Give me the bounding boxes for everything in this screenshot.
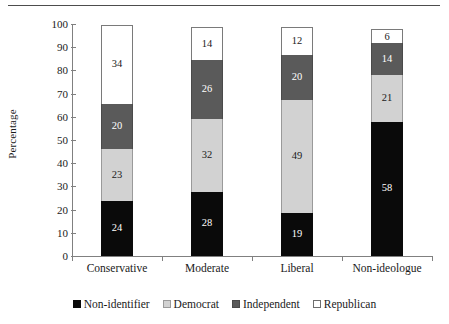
bar-segment[interactable]: 49 (281, 99, 313, 213)
bar-segment-value: 14 (382, 54, 393, 65)
x-tick-mark (72, 256, 73, 261)
bar-segment-value: 20 (292, 72, 303, 83)
bar-segment-value: 20 (112, 121, 123, 132)
stacked-bar[interactable]: 28322614 (191, 24, 223, 256)
y-tick-label: 10 (38, 226, 68, 241)
y-tick-mark (71, 233, 76, 234)
x-axis-label: Conservative (72, 262, 162, 274)
legend-item[interactable]: Independent (232, 298, 300, 310)
bar-group: 24232034 (101, 24, 133, 256)
legend-swatch-icon (73, 300, 81, 308)
bar-segment-value: 21 (382, 93, 393, 104)
stacked-bar[interactable]: 19492012 (281, 24, 313, 256)
bar-segment[interactable]: 28 (191, 191, 223, 256)
y-tick-mark (71, 117, 76, 118)
x-axis-label: Liberal (252, 262, 342, 274)
y-tick-mark (71, 140, 76, 141)
y-tick-mark (71, 210, 76, 211)
bar-group: 19492012 (281, 24, 313, 256)
x-tick-mark (252, 256, 253, 261)
y-tick-mark (71, 163, 76, 164)
bar-segment[interactable]: 20 (101, 103, 133, 149)
stacked-bar[interactable]: 24232034 (101, 24, 133, 256)
legend-label: Non-identifier (84, 298, 150, 310)
bar-segment[interactable]: 26 (191, 59, 223, 119)
bar-segment[interactable]: 14 (191, 27, 223, 59)
y-tick-mark (71, 94, 76, 95)
bar-segment-value: 6 (384, 32, 389, 43)
x-tick-mark (432, 256, 433, 261)
bar-group: 28322614 (191, 24, 223, 256)
y-tick-mark (71, 47, 76, 48)
x-tick-mark (342, 256, 343, 261)
stacked-bar-chart-figure: Percentage 0102030405060708090100 242320… (0, 0, 449, 324)
bar-segment[interactable]: 14 (371, 42, 403, 74)
legend-label: Republican (324, 298, 376, 310)
bar-segment-value: 26 (202, 84, 213, 95)
x-axis-label: Moderate (162, 262, 252, 274)
legend-swatch-icon (163, 300, 171, 308)
bar-segment[interactable]: 6 (371, 29, 403, 43)
bar-segment[interactable]: 23 (101, 148, 133, 201)
y-tick-label: 0 (38, 249, 68, 264)
x-axis-label: Non-ideologue (342, 262, 432, 274)
stacked-bar[interactable]: 5821146 (371, 24, 403, 256)
bar-segment[interactable]: 58 (371, 121, 403, 256)
y-tick-label: 20 (38, 203, 68, 218)
x-tick-mark (162, 256, 163, 261)
plot-area: 0102030405060708090100 24232034283226141… (72, 24, 432, 256)
bar-segment-value: 14 (202, 39, 213, 50)
y-tick-label: 70 (38, 87, 68, 102)
legend-item[interactable]: Republican (313, 298, 376, 310)
bar-segment[interactable]: 34 (101, 25, 133, 104)
y-tick-mark (71, 186, 76, 187)
bar-group: 5821146 (371, 24, 403, 256)
bar-segment[interactable]: 32 (191, 118, 223, 192)
chart-legend: Non-identifierDemocratIndependentRepubli… (0, 298, 449, 310)
y-axis-title: Percentage (6, 89, 18, 179)
legend-swatch-icon (313, 300, 321, 308)
bar-segment-value: 19 (292, 229, 303, 240)
y-tick-label: 80 (38, 63, 68, 78)
bar-segment[interactable]: 19 (281, 212, 313, 256)
bar-segment-value: 34 (112, 59, 123, 70)
y-tick-label: 60 (38, 110, 68, 125)
bar-segment[interactable]: 12 (281, 27, 313, 55)
bar-segment-value: 12 (292, 36, 303, 47)
y-tick-label: 50 (38, 133, 68, 148)
bar-segment-value: 32 (202, 150, 213, 161)
y-tick-mark (71, 70, 76, 71)
bar-segment-value: 24 (112, 223, 123, 234)
y-tick-label: 90 (38, 40, 68, 55)
bar-segment[interactable]: 24 (101, 200, 133, 256)
legend-swatch-icon (232, 300, 240, 308)
y-tick-label: 30 (38, 179, 68, 194)
legend-item[interactable]: Democrat (163, 298, 219, 310)
bar-segment-value: 49 (292, 151, 303, 162)
bar-segment-value: 58 (382, 183, 393, 194)
bar-segment[interactable]: 21 (371, 74, 403, 123)
legend-item[interactable]: Non-identifier (73, 298, 150, 310)
legend-label: Democrat (174, 298, 219, 310)
bar-segment[interactable]: 20 (281, 54, 313, 100)
bar-segment-value: 23 (112, 170, 123, 181)
legend-label: Independent (243, 298, 300, 310)
y-tick-mark (71, 24, 76, 25)
y-tick-label: 40 (38, 156, 68, 171)
bar-segment-value: 28 (202, 218, 213, 229)
y-tick-label: 100 (38, 17, 68, 32)
